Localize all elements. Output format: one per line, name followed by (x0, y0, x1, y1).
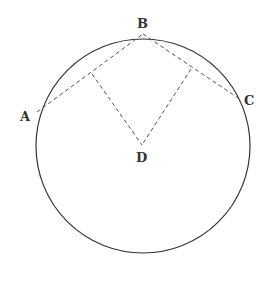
label-b: B (137, 16, 148, 31)
label-a: A (19, 109, 31, 124)
perpendicular-bc-to-d (142, 69, 191, 145)
circle (36, 39, 250, 253)
perpendicular-ab-to-d (92, 74, 142, 145)
chord-ab (37, 34, 143, 112)
label-d: D (136, 150, 147, 165)
label-c: C (244, 93, 254, 108)
geometry-diagram: B A C D (0, 0, 277, 287)
chord-bc (143, 34, 241, 100)
